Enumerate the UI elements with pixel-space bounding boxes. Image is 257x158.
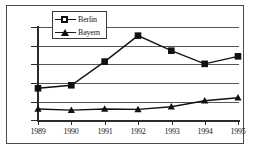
gridline-1.5	[38, 64, 239, 65]
y-axis-tick-2.5	[31, 27, 38, 28]
plot-area	[38, 27, 239, 121]
x-axis-tick-1991	[105, 120, 106, 125]
gridline-0.5	[38, 102, 239, 103]
x-axis-tick-1994	[205, 120, 206, 125]
y-axis-tick-0.5	[31, 102, 38, 103]
gridline-1.0	[38, 83, 239, 84]
chart-legend: Berlin Bayern	[52, 11, 107, 39]
legend-item-bayern: Bayern	[53, 26, 108, 39]
y-axis-spine	[37, 26, 39, 122]
square-marker-icon	[61, 16, 68, 23]
legend-label-berlin: Berlin	[78, 15, 97, 24]
gridline-2.0	[38, 46, 239, 47]
x-axis-label-1995: 1995	[218, 127, 257, 136]
x-axis-tick-1993	[172, 120, 173, 125]
x-axis-tick-1989	[38, 120, 39, 125]
chart-figure: 2,5 2 1,5 1 0,5 0 1989 1990 1991 1992 19…	[0, 0, 257, 158]
y-axis-tick-1.0	[31, 83, 38, 84]
triangle-marker-icon	[61, 29, 69, 36]
y-axis-tick-1.5	[31, 64, 38, 65]
legend-item-berlin: Berlin	[53, 13, 108, 26]
x-axis-tick-1995	[238, 120, 239, 125]
y-axis-tick-2.0	[31, 46, 38, 47]
x-axis-tick-1990	[71, 120, 72, 125]
legend-label-bayern: Bayern	[78, 28, 100, 37]
x-axis-tick-1992	[138, 120, 139, 125]
